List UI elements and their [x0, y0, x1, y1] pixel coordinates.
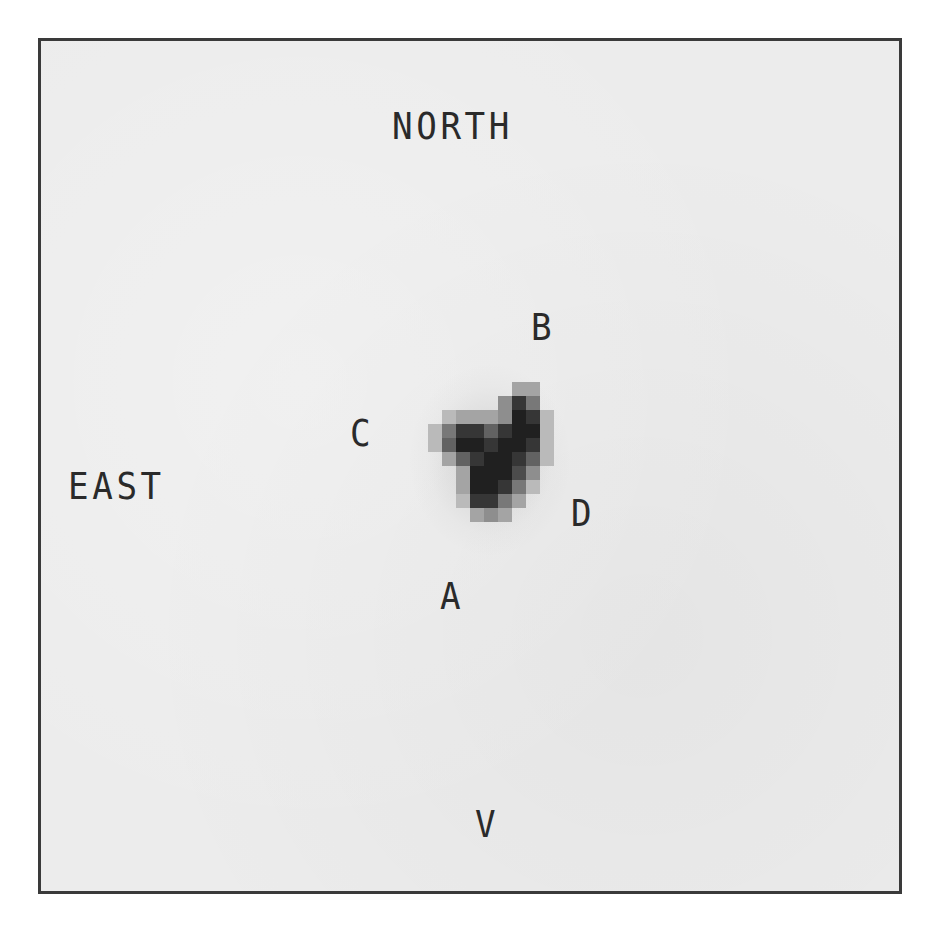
- blob-pixel: [512, 410, 526, 424]
- blob-pixel: [428, 424, 442, 438]
- blob-pixel: [512, 396, 526, 410]
- blob-pixel: [484, 494, 498, 508]
- blob-pixel: [512, 480, 526, 494]
- blob-pixel: [526, 480, 540, 494]
- blob-pixel: [484, 410, 498, 424]
- blob-pixel: [498, 410, 512, 424]
- component-b-label: B: [531, 308, 555, 346]
- blob-pixel: [484, 438, 498, 452]
- blob-pixel: [498, 494, 512, 508]
- blob-pixel: [540, 424, 554, 438]
- east-label: EAST: [68, 467, 165, 505]
- blob-pixel: [470, 424, 484, 438]
- blob-pixel: [484, 452, 498, 466]
- blob-pixel: [456, 410, 470, 424]
- blob-pixel: [498, 396, 512, 410]
- blob-pixel: [526, 424, 540, 438]
- blob-pixel: [470, 480, 484, 494]
- blob-pixel: [470, 438, 484, 452]
- blob-pixel: [484, 480, 498, 494]
- north-label: NORTH: [392, 107, 513, 145]
- blob-pixel: [540, 410, 554, 424]
- blob-pixel: [428, 438, 442, 452]
- blob-pixel: [456, 480, 470, 494]
- blob-pixel: [470, 466, 484, 480]
- blob-pixel: [456, 452, 470, 466]
- blob-pixel: [512, 452, 526, 466]
- blob-pixel: [526, 452, 540, 466]
- blob-pixel: [498, 452, 512, 466]
- blob-pixel: [526, 396, 540, 410]
- blob-pixel: [540, 452, 554, 466]
- component-c-label: C: [350, 414, 374, 452]
- blob-pixel: [512, 494, 526, 508]
- blob-pixel: [470, 494, 484, 508]
- blob-pixel: [540, 438, 554, 452]
- blob-pixel: [456, 466, 470, 480]
- blob-pixel: [498, 424, 512, 438]
- component-d-label: D: [571, 494, 595, 532]
- blob-pixel: [498, 480, 512, 494]
- blob-pixel: [512, 382, 526, 396]
- blob-pixel: [526, 410, 540, 424]
- blob-pixel: [526, 382, 540, 396]
- blob-pixel: [498, 466, 512, 480]
- band-label: V: [475, 805, 499, 843]
- blob-pixel: [512, 466, 526, 480]
- blob-pixel: [484, 466, 498, 480]
- blob-pixel: [456, 424, 470, 438]
- blob-pixel: [526, 466, 540, 480]
- blob-pixel: [484, 508, 498, 522]
- component-a-label: A: [440, 577, 464, 615]
- blob-pixel: [456, 438, 470, 452]
- blob-pixel: [512, 424, 526, 438]
- blob-pixel: [456, 494, 470, 508]
- blob-pixel: [442, 438, 456, 452]
- blob-pixel: [498, 508, 512, 522]
- blob-pixel: [512, 438, 526, 452]
- blob-pixel: [470, 508, 484, 522]
- blob-pixel: [470, 410, 484, 424]
- blob-pixel: [498, 438, 512, 452]
- blob-pixel: [442, 410, 456, 424]
- blob-pixel: [484, 424, 498, 438]
- blob-pixel: [470, 452, 484, 466]
- blob-pixel: [526, 438, 540, 452]
- blob-pixel: [442, 424, 456, 438]
- blob-pixel: [442, 452, 456, 466]
